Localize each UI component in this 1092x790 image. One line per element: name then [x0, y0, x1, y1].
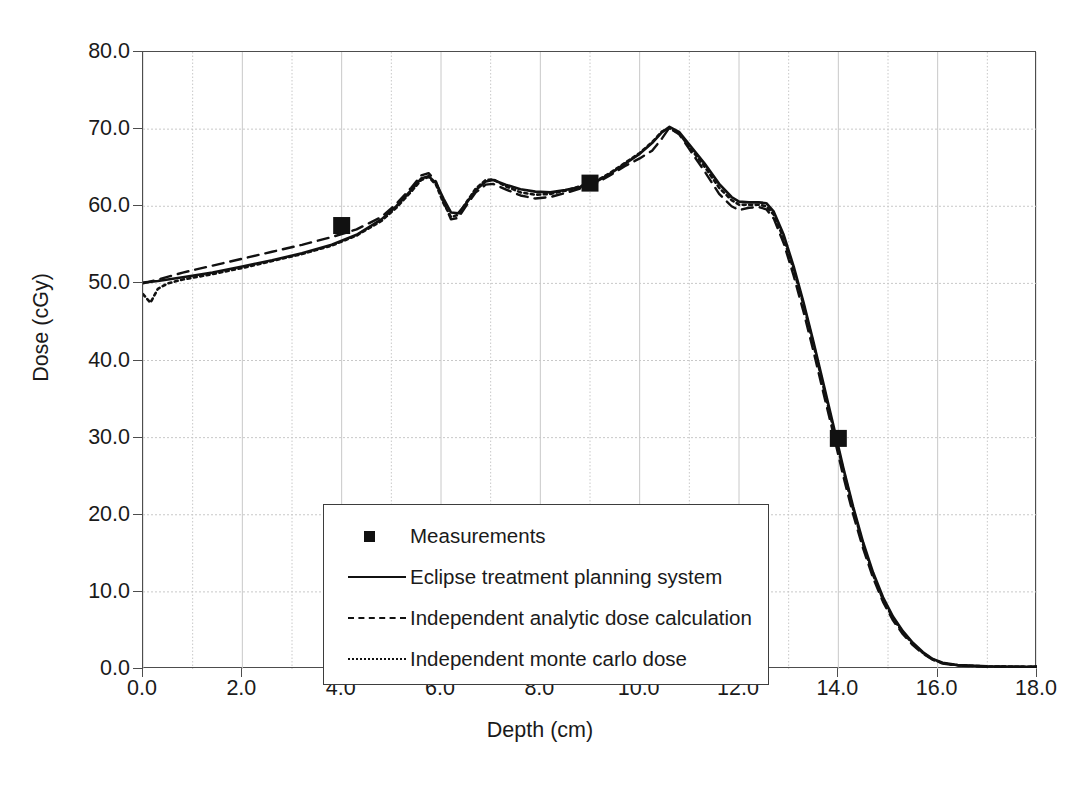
x-tick-mark — [241, 668, 242, 677]
square-marker-key — [346, 525, 410, 547]
x-tick-label: 2.0 — [191, 676, 291, 701]
legend-item-label: Independent monte carlo dose — [410, 647, 687, 671]
y-tick-label: 60.0 — [36, 193, 130, 218]
y-tick-label: 80.0 — [36, 39, 130, 64]
y-tick-label: 70.0 — [36, 116, 130, 141]
solid-line-key — [346, 566, 410, 588]
x-tick-label: 16.0 — [887, 676, 987, 701]
legend-item-measurements: Measurements — [324, 515, 768, 556]
measurement-marker — [830, 430, 847, 447]
x-tick-label: 0.0 — [92, 676, 192, 701]
x-axis-title: Depth (cm) — [440, 718, 640, 743]
x-tick-mark — [937, 668, 938, 677]
chart-figure: 0.010.020.030.040.050.060.070.080.0 0.02… — [0, 0, 1092, 790]
x-tick-mark — [837, 668, 838, 677]
legend-item-montecarlo: Independent monte carlo dose — [324, 638, 768, 679]
legend-item-analytic: Independent analytic dose calculation — [324, 597, 768, 638]
legend-item-label: Independent analytic dose calculation — [410, 606, 752, 630]
legend-item-label: Eclipse treatment planning system — [410, 565, 722, 589]
plot-area: Measurements Eclipse treatment planning … — [142, 51, 1036, 668]
x-tick-label: 18.0 — [986, 676, 1086, 701]
x-tick-label: 14.0 — [787, 676, 887, 701]
measurement-marker — [582, 175, 599, 192]
y-tick-label: 20.0 — [36, 501, 130, 526]
y-axis-title: Dose (cGy) — [29, 228, 54, 428]
y-tick-label: 10.0 — [36, 578, 130, 603]
x-tick-mark — [1036, 668, 1037, 677]
dotted-line-key — [346, 648, 410, 670]
x-tick-mark — [142, 668, 143, 677]
legend-item-eclipse: Eclipse treatment planning system — [324, 556, 768, 597]
y-tick-label: 30.0 — [36, 424, 130, 449]
dashed-line-key — [346, 607, 410, 629]
legend-box: Measurements Eclipse treatment planning … — [323, 504, 769, 685]
measurement-marker — [333, 217, 350, 234]
legend-item-label: Measurements — [410, 524, 546, 548]
